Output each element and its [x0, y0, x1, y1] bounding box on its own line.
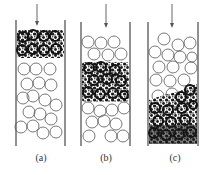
panel-label-a: (a)	[26, 152, 56, 163]
dirty-particle-band	[82, 62, 129, 102]
down-arrow-icon	[35, 4, 39, 26]
clean-particles	[15, 63, 62, 139]
panel-label-c: (c)	[160, 152, 190, 163]
panel-a	[15, 4, 65, 146]
dirty-particle-band	[17, 30, 64, 58]
panel-b	[81, 4, 130, 146]
column-diagram-figure: (a) (b) (c)	[0, 0, 209, 175]
diagram-svg	[0, 0, 209, 175]
panel-c	[148, 4, 198, 146]
down-arrow-icon	[104, 4, 108, 28]
dirty-particle-band	[149, 84, 197, 144]
down-arrow-icon	[170, 4, 174, 28]
panel-label-b: (b)	[91, 152, 121, 163]
clean-particles-lower	[82, 102, 130, 142]
clean-particles-upper	[82, 36, 127, 61]
